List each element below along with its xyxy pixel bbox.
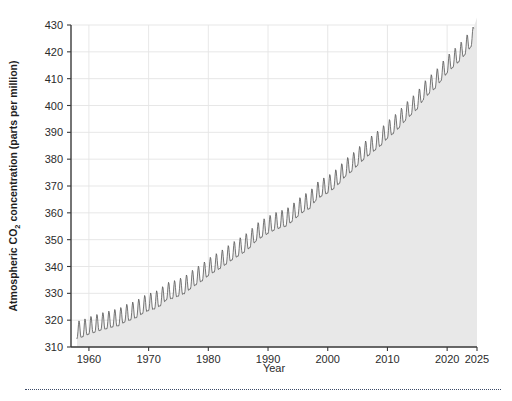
x-tick-label: 1960 <box>77 353 101 365</box>
co2-area-chart: 310320330340350360370380390400410420430 … <box>0 0 512 401</box>
y-tick-label: 350 <box>45 234 63 246</box>
y-tick-label: 330 <box>45 287 63 299</box>
y-tick-label: 370 <box>45 180 63 192</box>
x-tick-label: 2025 <box>465 353 489 365</box>
y-tick-label: 410 <box>45 73 63 85</box>
y-tick-label: 400 <box>45 100 63 112</box>
y-tick-label: 430 <box>45 19 63 31</box>
x-axis-title: Year <box>263 362 286 374</box>
y-tick-label: 310 <box>45 341 63 353</box>
chart-figure: 310320330340350360370380390400410420430 … <box>0 0 512 401</box>
x-tick-label: 1970 <box>136 353 160 365</box>
x-tick-label: 2010 <box>375 353 399 365</box>
y-tick-label: 420 <box>45 46 63 58</box>
y-tick-label: 380 <box>45 153 63 165</box>
y-tick-label: 320 <box>45 314 63 326</box>
y-tick-label: 340 <box>45 261 63 273</box>
x-tick-label: 2000 <box>315 353 339 365</box>
co2-area-fill-margin <box>474 17 477 347</box>
x-tick-label: 2020 <box>435 353 459 365</box>
x-tick-label: 1980 <box>196 353 220 365</box>
footer-separator <box>25 389 501 390</box>
y-tick-label: 390 <box>45 126 63 138</box>
y-tick-label: 360 <box>45 207 63 219</box>
